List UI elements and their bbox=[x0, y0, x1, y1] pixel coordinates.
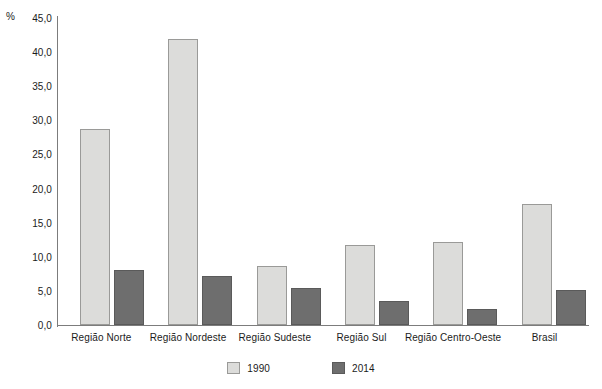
y-axis-tick-label: 0,0 bbox=[0, 320, 52, 331]
y-axis-tick-label: 20,0 bbox=[0, 183, 52, 194]
y-axis-tick-label: 5,0 bbox=[0, 285, 52, 296]
bar-1990[interactable] bbox=[345, 245, 375, 325]
legend-item-1990[interactable]: 1990 bbox=[227, 362, 270, 374]
bar-2014[interactable] bbox=[202, 276, 232, 325]
bar-group bbox=[58, 18, 146, 325]
y-axis-tick-label: 40,0 bbox=[0, 47, 52, 58]
bar-group bbox=[323, 18, 411, 325]
bar-chart: % 45,040,035,030,025,020,015,010,05,00,0… bbox=[0, 0, 602, 389]
chart-legend: 19902014 bbox=[0, 362, 602, 374]
bar-group bbox=[235, 18, 323, 325]
y-axis-tick-label: 10,0 bbox=[0, 251, 52, 262]
bar-groups bbox=[58, 18, 588, 325]
y-axis-tick-label: 45,0 bbox=[0, 13, 52, 24]
bar-1990[interactable] bbox=[433, 242, 463, 325]
x-axis-category-labels: Região NorteRegião NordesteRegião Sudest… bbox=[58, 332, 588, 343]
bar-2014[interactable] bbox=[467, 309, 497, 325]
legend-label: 1990 bbox=[247, 363, 270, 374]
x-axis-category-label: Brasil bbox=[501, 332, 588, 343]
x-axis-category-label: Região Norte bbox=[58, 332, 145, 343]
bar-group bbox=[500, 18, 588, 325]
y-axis-tick-label: 25,0 bbox=[0, 149, 52, 160]
x-axis-category-label: Região Centro-Oeste bbox=[405, 332, 501, 343]
legend-swatch-icon bbox=[332, 362, 345, 374]
bar-group bbox=[411, 18, 499, 325]
y-axis-tick-label: 35,0 bbox=[0, 81, 52, 92]
bar-2014[interactable] bbox=[291, 288, 321, 325]
bar-2014[interactable] bbox=[114, 270, 144, 325]
x-axis-line bbox=[57, 325, 589, 326]
bar-1990[interactable] bbox=[80, 129, 110, 325]
bar-2014[interactable] bbox=[556, 290, 586, 325]
y-axis-tick-label: 30,0 bbox=[0, 115, 52, 126]
x-axis-category-label: Região Sudeste bbox=[231, 332, 318, 343]
bar-2014[interactable] bbox=[379, 301, 409, 325]
y-axis-tick-label: 15,0 bbox=[0, 217, 52, 228]
x-axis-category-label: Região Nordeste bbox=[145, 332, 232, 343]
bar-group bbox=[146, 18, 234, 325]
bar-1990[interactable] bbox=[168, 39, 198, 325]
x-axis-category-label: Região Sul bbox=[318, 332, 405, 343]
bar-1990[interactable] bbox=[257, 266, 287, 325]
legend-swatch-icon bbox=[227, 362, 240, 374]
bar-1990[interactable] bbox=[522, 204, 552, 325]
legend-label: 2014 bbox=[352, 363, 375, 374]
y-axis-tick-labels: 45,040,035,030,025,020,015,010,05,00,0 bbox=[0, 0, 52, 389]
legend-item-2014[interactable]: 2014 bbox=[332, 362, 375, 374]
